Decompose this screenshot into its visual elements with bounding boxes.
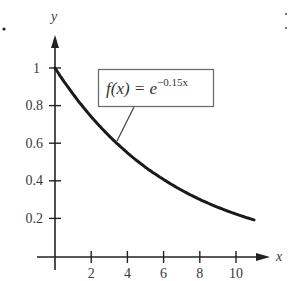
callout-leader-line: [117, 107, 134, 141]
page-edge-mark: [285, 13, 287, 15]
x-tick-label: 8: [196, 266, 203, 281]
y-axis-arrow-icon: [51, 35, 59, 48]
x-axis-label: x: [275, 249, 283, 264]
y-tick-label: 0.6: [26, 136, 44, 151]
y-tick-label: 0.8: [26, 98, 44, 113]
x-tick-label: 10: [229, 266, 243, 281]
y-axis-label: y: [49, 9, 58, 24]
page-dot-mark: [2, 27, 5, 30]
y-tick-label: 0.4: [26, 173, 44, 188]
x-tick-label: 4: [124, 266, 131, 281]
x-axis-arrow-icon: [256, 253, 270, 261]
x-tick-label: 2: [88, 266, 95, 281]
page-edge-mark: [285, 27, 287, 29]
x-tick-label: 6: [160, 266, 167, 281]
y-tick-label: 1: [33, 61, 40, 76]
chart-canvas: y x 1 0.8 0.6 0.4 0.2 2 4 6 8 10 f(x) = …: [0, 0, 288, 281]
y-tick-label: 0.2: [26, 211, 44, 226]
